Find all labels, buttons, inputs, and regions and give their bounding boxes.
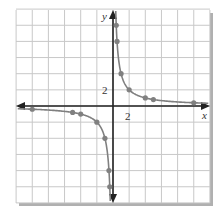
data-point bbox=[143, 95, 148, 100]
data-point bbox=[151, 97, 156, 102]
x-tick-label: 2 bbox=[125, 110, 131, 122]
data-point bbox=[114, 39, 119, 44]
data-point bbox=[118, 71, 123, 76]
data-point bbox=[106, 168, 111, 173]
y-axis-label: y bbox=[101, 10, 107, 22]
hyperbola-graph: y x 2 2 bbox=[0, 0, 220, 224]
y-tick-label: 2 bbox=[102, 84, 108, 96]
data-point bbox=[30, 107, 35, 112]
data-point bbox=[70, 110, 75, 115]
data-point bbox=[107, 184, 112, 189]
data-point bbox=[94, 120, 99, 125]
data-point bbox=[191, 100, 196, 105]
data-point bbox=[127, 87, 132, 92]
x-axis-label: x bbox=[201, 109, 207, 121]
data-point bbox=[102, 136, 107, 141]
data-point bbox=[114, 23, 119, 28]
data-point bbox=[78, 111, 83, 116]
